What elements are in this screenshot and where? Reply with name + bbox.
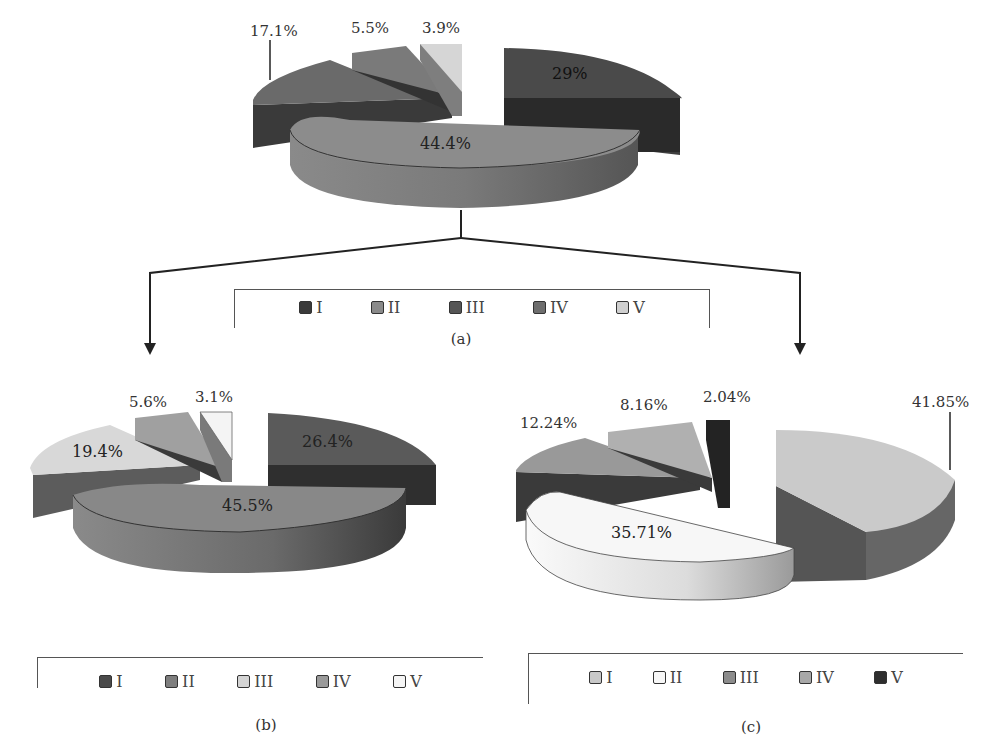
legend-item-a-IV: IV xyxy=(533,298,568,317)
label-a-I: 29% xyxy=(552,64,588,83)
label-a-V: 3.9% xyxy=(422,19,460,37)
legend-c: I II III IV V xyxy=(528,653,963,704)
legend-item-a-II: II xyxy=(371,298,401,317)
slice-a-II xyxy=(290,117,640,208)
label-c-V: 2.04% xyxy=(703,388,751,406)
swatch-icon xyxy=(449,301,462,314)
caption-c: (c) xyxy=(731,718,771,736)
swatch-icon xyxy=(237,675,250,688)
legend-item-c-IV: IV xyxy=(799,668,834,687)
pie-chart-c xyxy=(516,412,955,600)
swatch-icon xyxy=(299,301,312,314)
swatch-icon xyxy=(799,671,812,684)
label-c-I: 41.85% xyxy=(912,393,969,411)
legend-item-a-I: I xyxy=(299,298,322,317)
legend-item-c-II: II xyxy=(653,668,683,687)
swatch-icon xyxy=(874,671,887,684)
label-b-V: 3.1% xyxy=(195,388,233,406)
pie-chart-b xyxy=(30,412,436,573)
legend-item-a-III: III xyxy=(449,298,485,317)
label-a-II: 44.4% xyxy=(420,134,471,153)
legend-item-a-V: V xyxy=(616,298,645,317)
label-c-IV: 8.16% xyxy=(620,396,668,414)
caption-b: (b) xyxy=(246,716,286,734)
legend-item-c-V: V xyxy=(874,668,903,687)
label-a-IV: 5.5% xyxy=(351,19,389,37)
legend-item-c-III: III xyxy=(723,668,759,687)
swatch-icon xyxy=(653,671,666,684)
slice-c-V xyxy=(706,420,730,508)
legend-b: I II III IV V xyxy=(37,657,483,688)
swatch-icon xyxy=(616,301,629,314)
legend-item-b-I: I xyxy=(99,672,122,691)
label-b-III: 19.4% xyxy=(72,442,123,461)
label-b-I: 26.4% xyxy=(302,432,353,451)
label-c-III: 12.24% xyxy=(520,414,577,432)
swatch-icon xyxy=(316,675,329,688)
label-b-II: 45.5% xyxy=(222,496,273,515)
legend-item-b-V: V xyxy=(393,672,422,691)
slice-c-I xyxy=(776,430,955,582)
swatch-icon xyxy=(99,675,112,688)
slice-c-II xyxy=(526,492,794,600)
legend-a: I II III IV V xyxy=(234,289,710,328)
legend-item-b-II: II xyxy=(165,672,195,691)
swatch-icon xyxy=(723,671,736,684)
label-b-IV: 5.6% xyxy=(129,393,167,411)
swatch-icon xyxy=(393,675,406,688)
legend-item-b-III: III xyxy=(237,672,273,691)
swatch-icon xyxy=(589,671,602,684)
legend-item-c-I: I xyxy=(589,668,612,687)
label-c-II: 35.71% xyxy=(611,523,672,542)
pie-charts-graphic xyxy=(0,0,995,753)
caption-a: (a) xyxy=(441,330,481,348)
swatch-icon xyxy=(371,301,384,314)
legend-item-b-IV: IV xyxy=(316,672,351,691)
swatch-icon xyxy=(165,675,178,688)
swatch-icon xyxy=(533,301,546,314)
label-a-III: 17.1% xyxy=(250,22,298,40)
